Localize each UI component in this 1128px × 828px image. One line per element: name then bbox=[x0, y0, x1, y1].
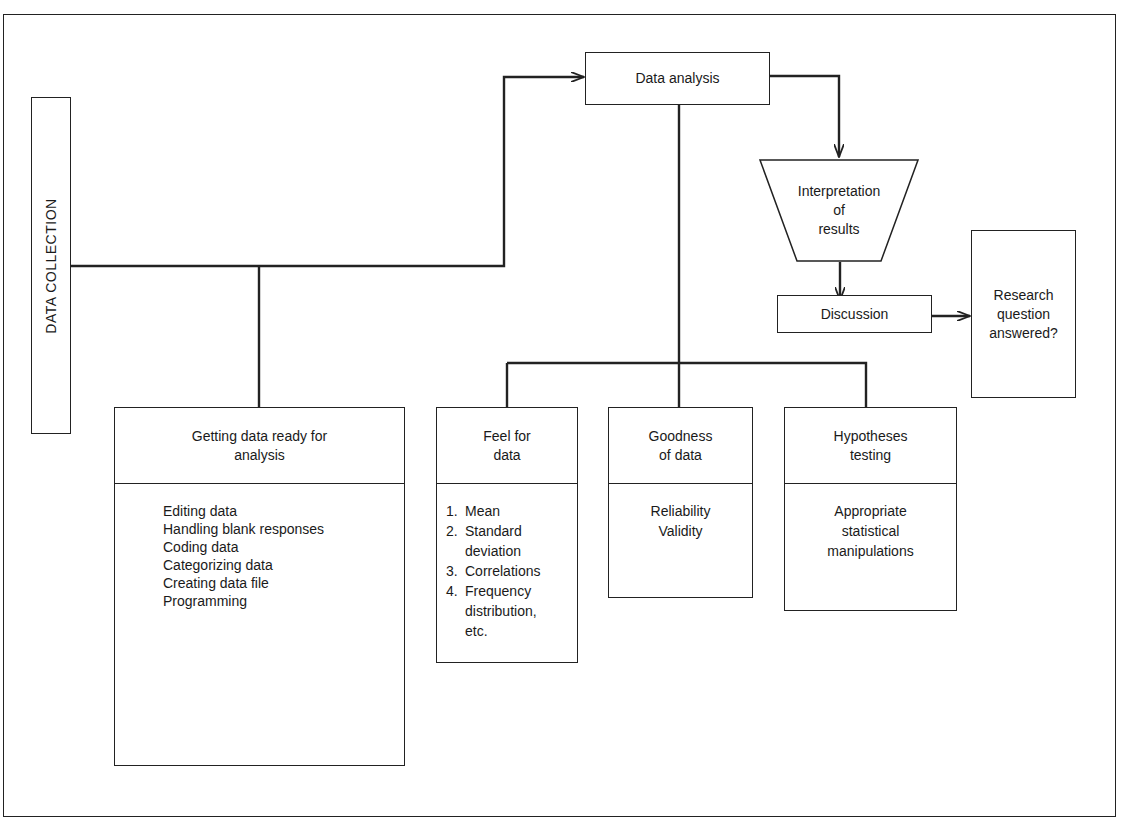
title-line: Feel for bbox=[483, 427, 530, 446]
list-item: manipulations bbox=[785, 541, 956, 561]
feel-for-data-title: Feel for data bbox=[437, 408, 577, 484]
data-analysis-box: Data analysis bbox=[585, 52, 770, 105]
interpretation-line-2: of bbox=[833, 201, 845, 220]
list-item: Categorizing data bbox=[163, 556, 404, 574]
item-text: deviation bbox=[465, 541, 522, 561]
list-item: Reliability bbox=[609, 501, 752, 521]
research-question-line-1: Research bbox=[994, 286, 1054, 305]
item-text: distribution, bbox=[465, 601, 537, 621]
list-item: 3. Correlations bbox=[446, 561, 577, 581]
title-line: Hypotheses bbox=[834, 427, 908, 446]
research-question-line-3: answered? bbox=[989, 324, 1058, 343]
goodness-of-data-list: Reliability Validity bbox=[609, 483, 752, 597]
feel-for-data-box: Feel for data 1. Mean 2. Standard deviat… bbox=[436, 407, 578, 663]
getting-data-ready-box: Getting data ready for analysis Editing … bbox=[114, 407, 405, 766]
list-item: Editing data bbox=[163, 502, 404, 520]
research-question-box: Research question answered? bbox=[971, 230, 1076, 398]
discussion-label: Discussion bbox=[821, 305, 889, 324]
goodness-of-data-title: Goodness of data bbox=[609, 408, 752, 484]
item-number: 4. bbox=[446, 581, 460, 641]
list-item: statistical bbox=[785, 521, 956, 541]
data-collection-box: DATA COLLECTION bbox=[31, 97, 71, 434]
title-line: of data bbox=[659, 446, 702, 465]
item-number: 3. bbox=[446, 561, 460, 581]
item-text: Mean bbox=[465, 501, 500, 521]
getting-data-ready-title: Getting data ready for analysis bbox=[115, 408, 404, 484]
list-item: Handling blank responses bbox=[163, 520, 404, 538]
item-text: etc. bbox=[465, 621, 537, 641]
interpretation-line-3: results bbox=[818, 220, 859, 239]
item-number: 2. bbox=[446, 521, 460, 561]
list-item: Coding data bbox=[163, 538, 404, 556]
list-item: Creating data file bbox=[163, 574, 404, 592]
getting-data-ready-list: Editing data Handling blank responses Co… bbox=[115, 483, 404, 765]
goodness-of-data-box: Goodness of data Reliability Validity bbox=[608, 407, 753, 598]
title-line: data bbox=[493, 446, 520, 465]
list-item: Programming bbox=[163, 592, 404, 610]
item-text: Correlations bbox=[465, 561, 540, 581]
title-line: analysis bbox=[234, 446, 285, 465]
list-item: Appropriate bbox=[785, 501, 956, 521]
hypotheses-testing-list: Appropriate statistical manipulations bbox=[785, 483, 956, 610]
research-question-line-2: question bbox=[997, 305, 1050, 324]
item-text: Standard bbox=[465, 521, 522, 541]
hypotheses-testing-box: Hypotheses testing Appropriate statistic… bbox=[784, 407, 957, 611]
interpretation-trapezoid: Interpretation of results bbox=[759, 159, 919, 262]
data-collection-label: DATA COLLECTION bbox=[43, 198, 59, 333]
hypotheses-testing-title: Hypotheses testing bbox=[785, 408, 956, 484]
interpretation-line-1: Interpretation bbox=[798, 182, 881, 201]
title-line: Getting data ready for bbox=[192, 427, 327, 446]
list-item: 4. Frequency distribution, etc. bbox=[446, 581, 577, 641]
title-line: testing bbox=[850, 446, 891, 465]
list-item: 2. Standard deviation bbox=[446, 521, 577, 561]
list-item: Validity bbox=[609, 521, 752, 541]
title-line: Goodness bbox=[649, 427, 713, 446]
feel-for-data-list: 1. Mean 2. Standard deviation 3. Correla… bbox=[437, 483, 577, 662]
item-text: Frequency bbox=[465, 581, 537, 601]
list-item: 1. Mean bbox=[446, 501, 577, 521]
item-number: 1. bbox=[446, 501, 460, 521]
data-analysis-label: Data analysis bbox=[635, 69, 719, 88]
discussion-box: Discussion bbox=[777, 295, 932, 333]
